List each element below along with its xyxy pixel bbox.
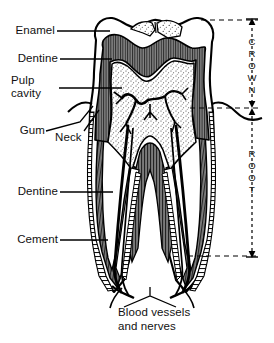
gum-line-right bbox=[212, 102, 262, 120]
label-gum: Gum bbox=[0, 124, 45, 137]
bracket-crown-letters: CROWN bbox=[246, 36, 257, 96]
label-cement: Cement bbox=[0, 233, 58, 246]
bracket-root-letters: ROOT bbox=[246, 148, 257, 196]
label-pulp-cavity-line1: Pulp bbox=[11, 74, 34, 87]
tooth-cross-section-figure: Enamel Dentine Pulp cavity Gum Neck Dent… bbox=[0, 0, 274, 343]
tooth-outline-group bbox=[68, 18, 262, 308]
bracket-label-crown: CROWN bbox=[246, 36, 258, 96]
gum-line-left bbox=[68, 102, 92, 112]
label-enamel: Enamel bbox=[0, 24, 55, 37]
label-dentine-crown: Dentine bbox=[0, 52, 58, 65]
label-neck: Neck bbox=[55, 131, 82, 144]
caption-blood-vessels-line1: Blood vessels bbox=[118, 306, 190, 319]
caption-blood-vessels-line2: and nerves bbox=[118, 320, 176, 333]
bracket-label-root: ROOT bbox=[246, 148, 258, 196]
label-dentine-root: Dentine bbox=[0, 185, 58, 198]
label-pulp-cavity-line2: cavity bbox=[11, 87, 41, 100]
